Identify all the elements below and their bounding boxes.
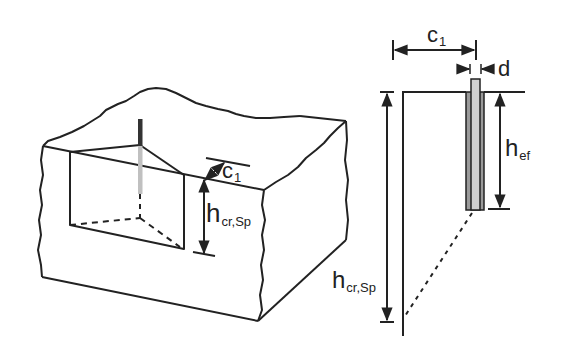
cone-bottom-dashed-left [70, 218, 140, 225]
anchor-splitting-diagram: c1 hcr,Sp c1 d hef hcr,Sp [0, 0, 565, 352]
label-hcrsp-3d-sub: cr,Sp [221, 214, 251, 229]
label-hef: hef [505, 136, 530, 160]
label-hcrsp-section-main: h [332, 266, 345, 293]
block-right-back-edge [345, 121, 348, 240]
label-c1-section-sub: 1 [439, 34, 446, 49]
block-right-rough-back-edge [300, 116, 346, 121]
block-right-face-top-edge [264, 121, 346, 190]
diagram-canvas [0, 0, 565, 352]
label-hef-main: h [505, 134, 518, 161]
label-hcrsp-3d: hcr,Sp [206, 200, 251, 226]
block-front-right-edge [258, 190, 265, 321]
label-c1-section-main: c [427, 22, 438, 47]
anchor-3d-exposed [138, 119, 143, 146]
label-d-main: d [498, 56, 510, 81]
anchor-rod [471, 79, 480, 210]
section-surface-and-edge [403, 92, 466, 336]
label-hcrsp-section-sub: cr,Sp [346, 280, 376, 295]
label-c1-3d-sub: 1 [234, 170, 241, 185]
block-top-rough-edge [43, 88, 300, 146]
label-c1-3d-main: c [222, 158, 233, 183]
cross-section [403, 92, 525, 336]
concrete-block-3d [38, 88, 348, 321]
label-c1-section: c1 [427, 24, 446, 46]
splitting-dashed-line [405, 213, 472, 316]
anchor-3d [138, 119, 143, 194]
label-hcrsp-3d-main: h [206, 198, 220, 228]
cone-cut-rectangle [70, 152, 184, 249]
block-front-bottom-edge [42, 277, 258, 321]
anchor-3d-embedded [138, 146, 143, 194]
cone-top-left-line [70, 145, 140, 152]
hcrsp-dimension-section [380, 92, 394, 322]
label-hef-sub: ef [519, 148, 530, 163]
d-dimension [458, 64, 493, 74]
anchor-section [466, 79, 484, 210]
label-d: d [498, 58, 510, 80]
block-front-left-edge [38, 146, 43, 277]
label-hcrsp-section: hcr,Sp [332, 268, 376, 292]
cone-bottom-dashed-right [140, 218, 180, 247]
label-c1-3d: c1 [222, 160, 241, 182]
